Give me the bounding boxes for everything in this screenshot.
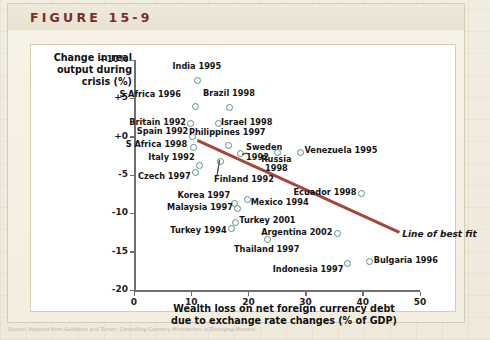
x-tick <box>420 292 422 296</box>
x-tick-label-1: 10 <box>175 297 207 307</box>
x-tick <box>191 292 193 296</box>
data-point-label-12: Czech 1997 <box>41 172 191 181</box>
x-axis-line <box>134 290 420 292</box>
data-point-label-line: Bulgaria 1996 <box>374 256 490 265</box>
data-point-label-22: Indonesia 1997 <box>193 265 343 274</box>
figure-label: FIGURE 15-9 <box>30 10 153 25</box>
data-point-label-0: India 1995 <box>122 62 272 71</box>
best-fit-line-label: Line of best fit <box>402 229 476 239</box>
x-tick <box>362 292 364 296</box>
data-point <box>192 103 199 110</box>
data-point <box>192 169 199 176</box>
y-tick-label-5: -15 <box>82 246 128 256</box>
data-point-label-10: Venezuela 1995 <box>304 146 454 155</box>
x-tick-label-0: 0 <box>118 297 150 307</box>
data-point-label-23: Bulgaria 1996 <box>374 256 490 265</box>
data-point <box>297 149 304 156</box>
data-point-label-21: Thailand 1997 <box>192 245 342 254</box>
data-point <box>196 162 203 169</box>
figure-root: FIGURE 15-9 Change in real output during… <box>0 0 490 340</box>
data-point-label-line: Indonesia 1997 <box>193 265 343 274</box>
x-tick-label-2: 20 <box>232 297 264 307</box>
data-point-label-line: Finland 1992 <box>214 175 364 184</box>
data-point <box>244 196 251 203</box>
data-point-label-2: Brazil 1998 <box>154 89 304 98</box>
data-point-label-13: Finland 1992 <box>214 175 364 184</box>
data-point-label-9: Russia1998 <box>201 155 351 174</box>
data-point-label-15: Korea 1997 <box>80 191 230 200</box>
x-tick <box>248 292 250 296</box>
x-tick <box>134 292 136 296</box>
data-point-label-6: Philippines 1997 <box>152 128 302 137</box>
data-point-label-line: Czech 1997 <box>41 172 191 181</box>
y-tick-label-6: -20 <box>82 284 128 294</box>
y-tick <box>130 213 134 215</box>
y-tick <box>130 290 134 292</box>
data-point-label-line: Korea 1997 <box>80 191 230 200</box>
data-point-label-line: Turkey 2001 <box>239 216 389 225</box>
data-point-label-line: Italy 1992 <box>45 153 195 162</box>
data-point <box>225 142 232 149</box>
data-point-label-20: Argentina 2002 <box>182 228 332 237</box>
data-point <box>232 219 239 226</box>
data-point-label-11: Italy 1992 <box>45 153 195 162</box>
x-tick-label-3: 30 <box>290 297 322 307</box>
y-tick <box>130 251 134 253</box>
data-point-label-4: Israel 1998 <box>221 118 371 127</box>
data-point-label-line: S Africa 1998 <box>37 140 187 149</box>
data-point-label-16: Mexico 1994 <box>251 198 401 207</box>
x-tick-label-4: 40 <box>347 297 379 307</box>
y-axis-title-line3: crisis (%) <box>28 76 132 88</box>
data-point-label-line: Brazil 1998 <box>154 89 304 98</box>
data-point-label-line: Argentina 2002 <box>182 228 332 237</box>
figure-source-caption: Source: Adapted from Goldstein and Turne… <box>8 326 464 338</box>
data-point-label-7: S Africa 1998 <box>37 140 187 149</box>
data-point <box>334 230 341 237</box>
data-point-label-line: Israel 1998 <box>221 118 371 127</box>
x-tick <box>305 292 307 296</box>
data-point-label-line: Venezuela 1995 <box>304 146 454 155</box>
data-point-label-18: Turkey 2001 <box>239 216 389 225</box>
data-point-label-17: Malaysia 1997 <box>83 203 233 212</box>
y-axis-title-line2: output during <box>28 64 132 76</box>
data-point-label-line: Mexico 1994 <box>251 198 401 207</box>
data-point <box>226 104 233 111</box>
data-point-label-line: Thailand 1997 <box>192 245 342 254</box>
y-tick <box>130 60 134 62</box>
data-point-label-line: 1998 <box>201 164 351 173</box>
data-point-label-line: Philippines 1997 <box>152 128 302 137</box>
data-point-label-line: India 1995 <box>122 62 272 71</box>
data-point-label-line: Malaysia 1997 <box>83 203 233 212</box>
x-tick-label-5: 50 <box>404 297 436 307</box>
